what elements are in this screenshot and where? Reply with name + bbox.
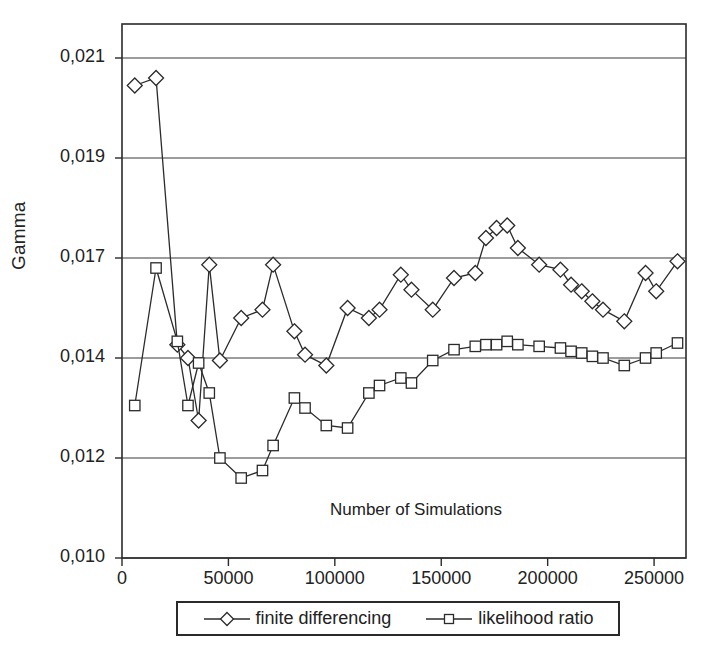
legend-marker-square-icon xyxy=(425,610,473,628)
data-point-square xyxy=(151,263,161,273)
data-point-diamond xyxy=(468,266,483,281)
data-point-square xyxy=(321,420,331,430)
data-point-square xyxy=(491,339,501,349)
data-point-diamond xyxy=(340,301,355,316)
y-tick-label-0: 0,010 xyxy=(27,546,105,567)
x-tick-label-0: 0 xyxy=(62,568,182,589)
data-point-diamond xyxy=(287,324,302,339)
data-point-square xyxy=(577,348,587,358)
data-point-square xyxy=(449,344,459,354)
data-point-square xyxy=(300,403,310,413)
data-point-square xyxy=(513,339,523,349)
data-point-diamond xyxy=(298,347,313,362)
plot-frame xyxy=(122,24,686,558)
data-point-diamond xyxy=(234,311,249,326)
data-point-diamond xyxy=(393,267,408,282)
data-point-square xyxy=(236,473,246,483)
data-point-diamond xyxy=(255,302,270,317)
data-point-square xyxy=(193,358,203,368)
data-point-square xyxy=(183,400,193,410)
data-point-square xyxy=(342,423,352,433)
data-point-square xyxy=(619,360,629,370)
data-point-square xyxy=(428,355,438,365)
data-point-square xyxy=(289,393,299,403)
data-point-square xyxy=(481,339,491,349)
legend-item-finite-differencing[interactable]: finite differencing xyxy=(203,608,392,629)
x-tick-label-3: 150000 xyxy=(381,568,501,589)
legend: finite differencing likelihood ratio xyxy=(176,601,620,636)
x-tick-label-1: 50000 xyxy=(168,568,288,589)
data-point-diamond xyxy=(149,71,164,86)
data-point-square xyxy=(587,351,597,361)
y-tick-label-4: 0,019 xyxy=(27,146,105,167)
data-point-square xyxy=(215,453,225,463)
legend-item-likelihood-ratio[interactable]: likelihood ratio xyxy=(425,608,593,629)
data-point-square xyxy=(502,336,512,346)
y-tick-label-5: 0,021 xyxy=(27,46,105,67)
data-point-diamond xyxy=(319,358,334,373)
data-point-square xyxy=(374,380,384,390)
legend-label-0: finite differencing xyxy=(256,608,392,629)
data-point-diamond xyxy=(553,262,568,277)
data-point-square xyxy=(130,400,140,410)
legend-marker-diamond-icon xyxy=(203,610,251,628)
legend-label-1: likelihood ratio xyxy=(478,608,593,629)
data-point-diamond xyxy=(595,302,610,317)
x-tick-label-4: 200000 xyxy=(488,568,608,589)
chart-figure: Gamma Number of Simulations 0,010 0,012 … xyxy=(0,0,715,659)
y-tick-label-2: 0,014 xyxy=(27,346,105,367)
data-point-square xyxy=(470,341,480,351)
x-tick-label-2: 100000 xyxy=(275,568,395,589)
data-point-square xyxy=(651,348,661,358)
data-point-square xyxy=(566,346,576,356)
data-point-diamond xyxy=(361,311,376,326)
y-tick-label-1: 0,012 xyxy=(27,446,105,467)
data-point-diamond xyxy=(638,266,653,281)
data-point-square xyxy=(598,353,608,363)
data-point-square xyxy=(396,373,406,383)
data-point-diamond xyxy=(202,257,217,272)
data-point-diamond xyxy=(372,302,387,317)
data-point-diamond xyxy=(447,271,462,286)
x-tick-label-5: 250000 xyxy=(594,568,714,589)
data-point-square xyxy=(172,336,182,346)
data-point-diamond xyxy=(191,413,206,428)
y-tick-label-3: 0,017 xyxy=(27,246,105,267)
data-point-diamond xyxy=(532,257,547,272)
data-point-square xyxy=(364,388,374,398)
data-point-diamond xyxy=(266,257,281,272)
data-point-diamond xyxy=(127,78,142,93)
data-point-square xyxy=(268,440,278,450)
data-point-square xyxy=(555,343,565,353)
data-point-diamond xyxy=(670,254,685,269)
data-point-square xyxy=(672,338,682,348)
data-point-square xyxy=(204,388,214,398)
series-line-finite-differencing xyxy=(135,78,678,421)
series-layer xyxy=(127,71,685,484)
plot-area xyxy=(0,0,715,659)
data-point-diamond xyxy=(510,241,525,256)
data-point-square xyxy=(257,465,267,475)
data-point-square xyxy=(406,378,416,388)
data-point-diamond xyxy=(212,353,227,368)
data-point-square xyxy=(640,353,650,363)
data-point-diamond xyxy=(617,314,632,329)
data-point-square xyxy=(534,341,544,351)
data-point-diamond xyxy=(649,284,664,299)
x-axis-title: Number of Simulations xyxy=(330,500,502,520)
